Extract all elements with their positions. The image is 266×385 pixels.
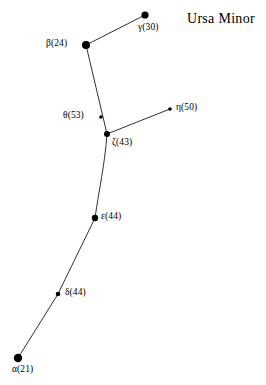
asterism-line-zeta-eta bbox=[107, 109, 170, 134]
asterism-lines-group bbox=[18, 15, 170, 358]
star-label-eta: η(50) bbox=[176, 102, 197, 113]
asterism-line-delta-alpha bbox=[18, 294, 58, 358]
star-label-theta: θ(53) bbox=[63, 110, 84, 121]
constellation-diagram bbox=[0, 0, 266, 385]
star-chart-canvas: Ursa Minor γ(30) β(24) θ(53) ζ(43) η(50)… bbox=[0, 0, 266, 385]
star-label-epsilon: ε(44) bbox=[101, 211, 121, 222]
star-dot-delta[interactable] bbox=[56, 292, 61, 297]
star-dot-gamma[interactable] bbox=[141, 11, 148, 18]
star-dot-eta[interactable] bbox=[168, 107, 172, 111]
star-label-beta: β(24) bbox=[46, 38, 67, 49]
chart-title: Ursa Minor bbox=[187, 11, 255, 27]
star-label-zeta: ζ(43) bbox=[112, 137, 132, 148]
asterism-line-beta-zeta bbox=[86, 45, 107, 134]
star-dot-alpha[interactable] bbox=[14, 354, 22, 362]
star-dot-zeta[interactable] bbox=[104, 131, 110, 137]
star-dot-epsilon[interactable] bbox=[92, 215, 98, 221]
asterism-line-epsilon-delta bbox=[58, 218, 95, 294]
star-label-delta: δ(44) bbox=[65, 287, 86, 298]
star-dot-beta[interactable] bbox=[82, 41, 90, 49]
star-dot-theta[interactable] bbox=[99, 115, 103, 119]
star-label-alpha: α(21) bbox=[12, 364, 33, 375]
asterism-line-zeta-epsilon bbox=[95, 134, 107, 218]
star-label-gamma: γ(30) bbox=[138, 22, 159, 33]
asterism-line-gamma-beta bbox=[86, 15, 145, 45]
star-dots-group bbox=[14, 11, 172, 362]
